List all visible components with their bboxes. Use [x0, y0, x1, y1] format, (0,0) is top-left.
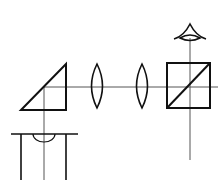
- lens-2: [137, 64, 148, 108]
- beam-splitter-cube: [167, 63, 210, 108]
- diagram-canvas: [0, 0, 219, 194]
- cube-diagonal: [167, 63, 210, 108]
- optical-diagram: [0, 0, 219, 194]
- lens-1: [92, 64, 103, 108]
